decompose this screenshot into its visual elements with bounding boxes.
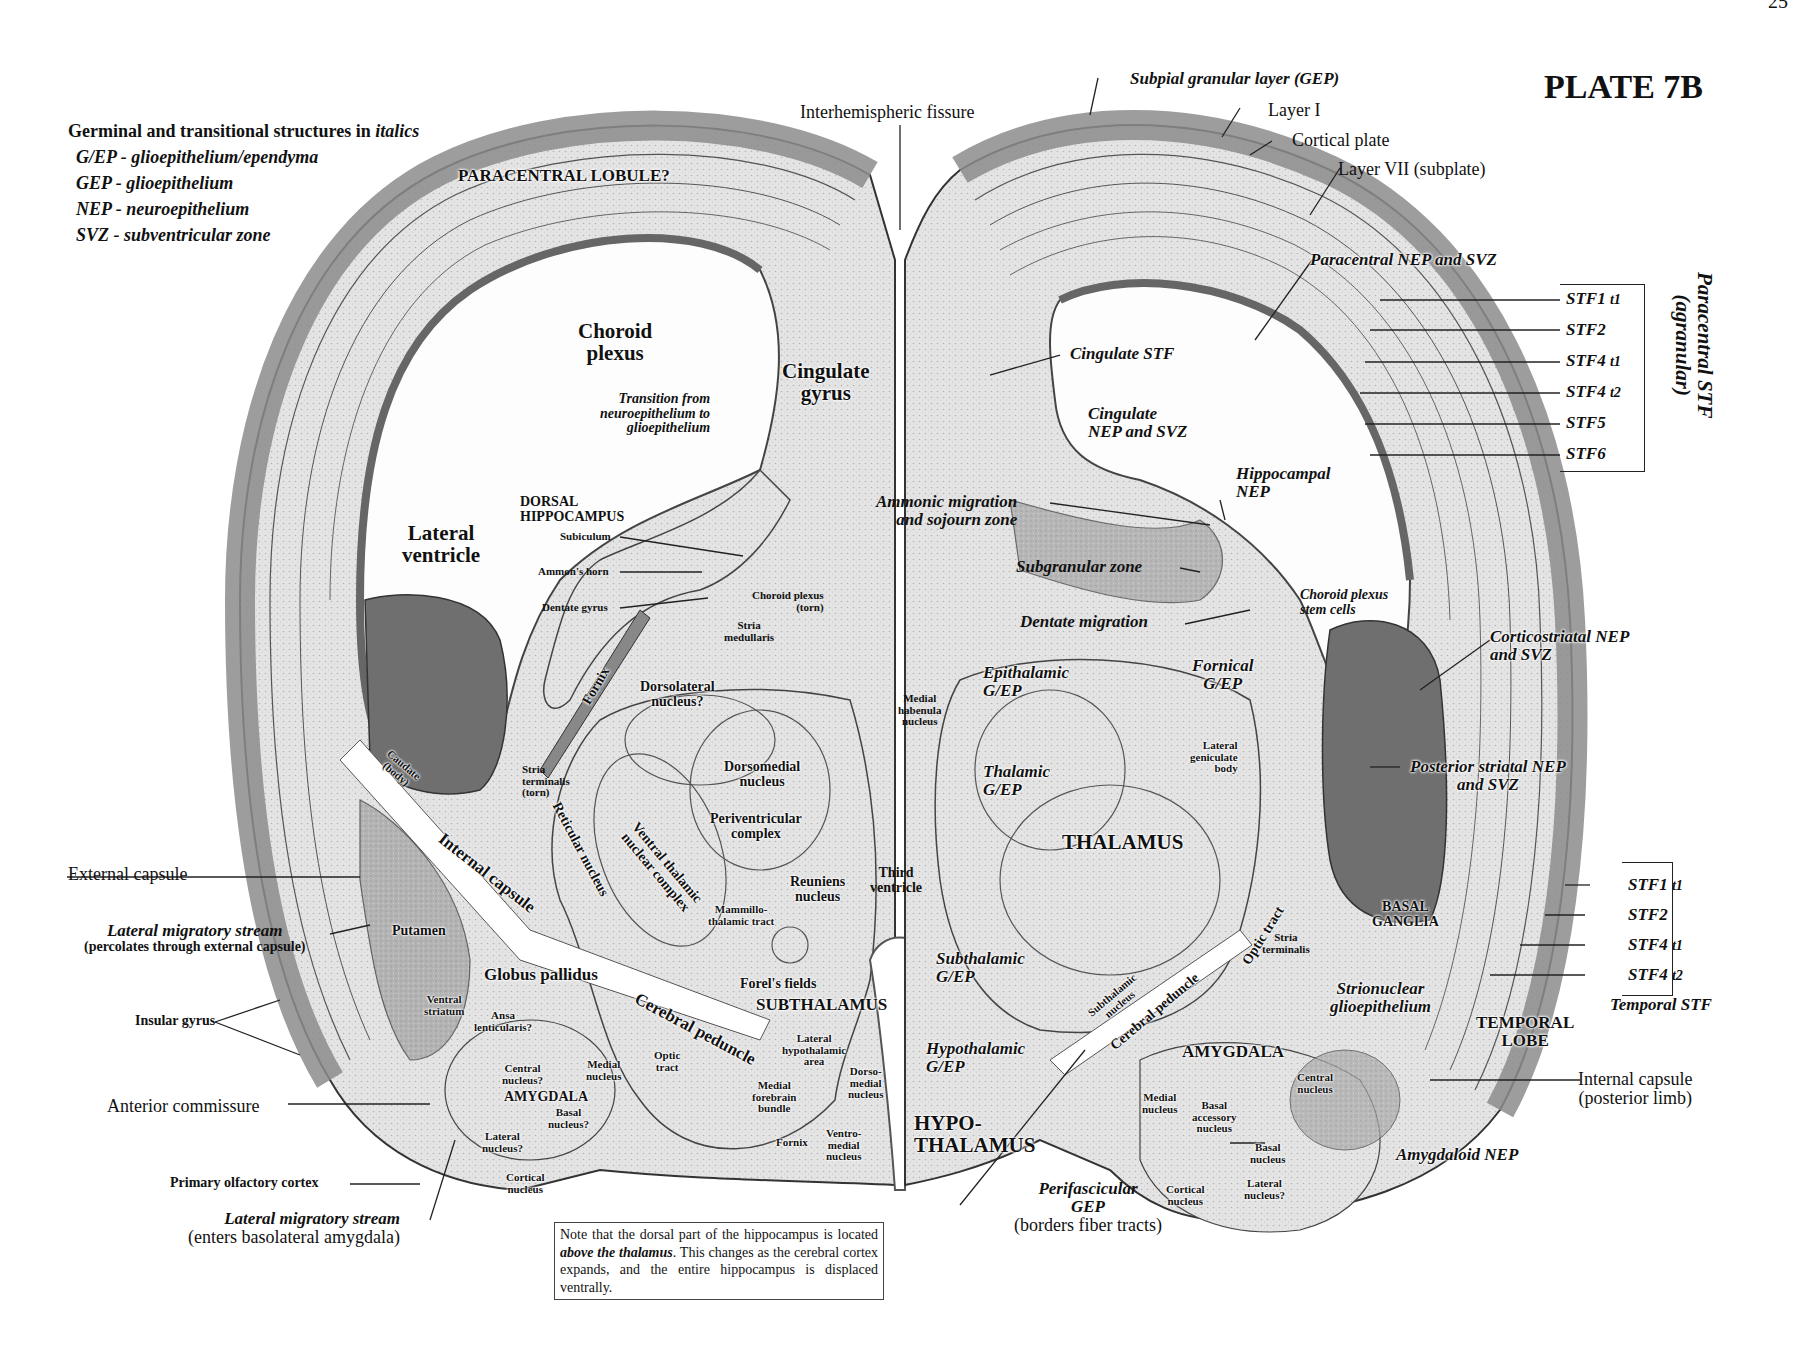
plate-title: PLATE 7B bbox=[1544, 68, 1703, 106]
label-optic-tract-left: Optictract bbox=[654, 1050, 680, 1073]
label-hypothalamus: HYPO-THALAMUS bbox=[914, 1112, 1035, 1156]
label-ventral-striatum: Ventralstriatum bbox=[424, 994, 464, 1017]
legend-item: SVZ - subventricular zone bbox=[76, 225, 419, 246]
label-hippocampal-nep: HippocampalNEP bbox=[1236, 465, 1330, 501]
label-fornix-small: Fornix bbox=[776, 1137, 808, 1149]
label-lateral-hypothalamic-area: Lateralhypothalamicarea bbox=[782, 1033, 846, 1068]
note-box: Note that the dorsal part of the hippoca… bbox=[554, 1222, 884, 1300]
label-perifascicular-gep: PerifascicularGEP(borders fiber tracts) bbox=[1014, 1180, 1162, 1235]
label-subthalamic-gep: SubthalamicG/EP bbox=[936, 950, 1025, 986]
label-strionuclear-glioepithelium: Strionuclearglioepithelium bbox=[1330, 980, 1431, 1016]
label-subgranular-zone: Subgranular zone bbox=[1016, 558, 1142, 576]
legend-item: G/EP - glioepithelium/ependyma bbox=[76, 147, 419, 168]
label-thalamus: THALAMUS bbox=[1062, 831, 1183, 853]
label-medial-forebrain-bundle: Medialforebrainbundle bbox=[752, 1080, 796, 1115]
label-dorsolateral-nucleus: Dorsolateralnucleus? bbox=[640, 680, 715, 709]
label-central-nucleus-q: Centralnucleus? bbox=[502, 1063, 543, 1086]
label-epithalamic-gep: EpithalamicG/EP bbox=[983, 664, 1069, 700]
label-cortical-plate: Cortical plate bbox=[1292, 131, 1389, 150]
label-cingulate-stf: Cingulate STF bbox=[1070, 345, 1174, 363]
label-paracentral-lobule: PARACENTRAL LOBULE? bbox=[458, 167, 670, 185]
temporal-stf-bracket bbox=[1622, 862, 1673, 996]
page-number: 25 bbox=[1768, 0, 1788, 13]
left-hemisphere bbox=[240, 126, 925, 1190]
label-dorsal-hippocampus: DORSALHIPPOCAMPUS bbox=[520, 495, 624, 524]
label-layer-vii-subplate: Layer VII (subplate) bbox=[1338, 160, 1486, 179]
label-fornical-gep: FornicalG/EP bbox=[1192, 657, 1253, 693]
label-anterior-commissure: Anterior commissure bbox=[107, 1097, 259, 1116]
label-forels-fields: Forel's fields bbox=[740, 977, 816, 992]
label-subiculum: Subiculum bbox=[560, 531, 611, 543]
label-third-ventricle: Thirdventricle bbox=[870, 866, 922, 895]
paracentral-stf-title: Paracentral STF(agranular) bbox=[1672, 272, 1716, 418]
label-stria-terminalis-torn: Striaterminalis(torn) bbox=[522, 764, 570, 799]
label-primary-olfactory-cortex: Primary olfactory cortex bbox=[170, 1176, 318, 1191]
label-ammonic-migration: Ammonic migrationand sojourn zone bbox=[876, 493, 1017, 529]
label-corticostriatal-nep: Corticostriatal NEPand SVZ bbox=[1490, 628, 1629, 664]
label-lateral-migratory-stream-bottom: Lateral migratory stream(enters basolate… bbox=[188, 1210, 400, 1247]
label-basal-nucleus-q: Basalnucleus? bbox=[548, 1107, 589, 1130]
label-cingulate-gyrus: Cingulategyrus bbox=[782, 360, 870, 404]
label-transition: Transition fromneuroepithelium toglioepi… bbox=[600, 392, 710, 436]
label-amygdaloid-nep: Amygdaloid NEP bbox=[1396, 1146, 1518, 1164]
legend: Germinal and transitional structures in … bbox=[68, 121, 419, 246]
label-insular-gyrus: Insular gyrus bbox=[135, 1014, 215, 1029]
label-interhemispheric-fissure: Interhemispheric fissure bbox=[800, 103, 974, 122]
label-putamen: Putamen bbox=[392, 924, 446, 939]
label-choroid-plexus-torn: Choroid plexus(torn) bbox=[752, 590, 824, 613]
label-basal-accessory-nucleus: Basalaccessorynucleus bbox=[1192, 1100, 1237, 1135]
label-basal-ganglia: BASALGANGLIA bbox=[1372, 900, 1439, 929]
label-medial-nucleus-left: Medialnucleus bbox=[586, 1059, 621, 1082]
label-internal-capsule-posterior: Internal capsule(posterior limb) bbox=[1578, 1070, 1692, 1108]
label-choroid-plexus-stem-cells: Choroid plexusstem cells bbox=[1300, 588, 1388, 617]
legend-item: GEP - glioepithelium bbox=[76, 173, 419, 194]
label-amygdala-left: AMYGDALA bbox=[504, 1090, 588, 1105]
label-lateral-ventricle: Lateralventricle bbox=[402, 522, 480, 566]
label-external-capsule: External capsule bbox=[68, 865, 187, 884]
label-hypothalamic-gep: HypothalamicG/EP bbox=[926, 1040, 1025, 1076]
legend-heading: Germinal and transitional structures in … bbox=[68, 121, 419, 142]
paracentral-stf-bracket bbox=[1560, 284, 1645, 472]
label-thalamic-gep: ThalamicG/EP bbox=[983, 763, 1050, 799]
label-medial-habenula-nucleus: Medialhabenulanucleus bbox=[898, 693, 941, 728]
label-mammillothalamic-tract: Mammillo-thalamic tract bbox=[708, 904, 774, 927]
legend-item: NEP - neuroepithelium bbox=[76, 199, 419, 220]
label-cortical-nucleus-left: Corticalnucleus bbox=[506, 1172, 544, 1195]
label-subthalamus: SUBTHALAMUS bbox=[756, 996, 887, 1014]
label-temporal-lobe: TEMPORALLOBE bbox=[1476, 1014, 1574, 1050]
label-stria-medullaris: Striamedullaris bbox=[724, 620, 774, 643]
label-ventromedial-nucleus: Ventro-medialnucleus bbox=[826, 1128, 861, 1163]
label-basal-nucleus-right: Basalnucleus bbox=[1250, 1142, 1285, 1165]
label-ammons-horn: Ammon's horn bbox=[538, 566, 609, 578]
label-central-nucleus-right: Centralnucleus bbox=[1297, 1072, 1333, 1095]
label-lateral-nucleus-q-right: Lateralnucleus? bbox=[1244, 1178, 1285, 1201]
label-periventricular-complex: Periventricularcomplex bbox=[710, 812, 802, 841]
label-choroid-plexus: Choroidplexus bbox=[578, 320, 652, 364]
label-ansa-lenticularis: Ansalenticularis? bbox=[474, 1010, 532, 1033]
label-dorsomedial-hypothalamic: Dorso-medialnucleus bbox=[848, 1066, 883, 1101]
label-dentate-gyrus: Dentate gyrus bbox=[542, 602, 608, 614]
label-layer-i: Layer I bbox=[1268, 101, 1320, 120]
label-medial-nucleus-right: Medialnucleus bbox=[1142, 1092, 1177, 1115]
label-dentate-migration: Dentate migration bbox=[1020, 613, 1148, 631]
label-dorsomedial-nucleus: Dorsomedialnucleus bbox=[724, 760, 800, 789]
label-subpial-granular-layer: Subpial granular layer (GEP) bbox=[1130, 70, 1339, 88]
label-amygdala-right: AMYGDALA bbox=[1182, 1043, 1284, 1061]
label-cingulate-nep-svz: CingulateNEP and SVZ bbox=[1088, 405, 1188, 441]
label-reuniens-nucleus: Reuniensnucleus bbox=[790, 875, 845, 904]
label-lateral-nucleus-q-left: Lateralnucleus? bbox=[482, 1131, 523, 1154]
label-lateral-geniculate-body: Lateralgeniculatebody bbox=[1190, 740, 1238, 775]
label-globus-pallidus: Globus pallidus bbox=[484, 966, 598, 984]
label-lateral-migratory-stream-top: Lateral migratory stream(percolates thro… bbox=[84, 922, 306, 955]
label-cortical-nucleus-right: Corticalnucleus bbox=[1166, 1184, 1204, 1207]
temporal-stf-title: Temporal STF bbox=[1610, 996, 1712, 1014]
label-paracentral-nep-svz: Paracentral NEP and SVZ bbox=[1310, 251, 1497, 269]
label-posterior-striatal-nep: Posterior striatal NEPand SVZ bbox=[1410, 758, 1566, 794]
